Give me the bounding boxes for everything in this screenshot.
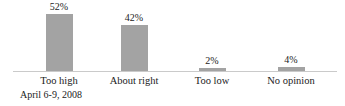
bar-no-opinion xyxy=(278,67,305,71)
value-label-no-opinion: 4% xyxy=(284,55,297,65)
value-label-too-high: 52% xyxy=(50,2,68,12)
bar-too-low xyxy=(199,68,226,71)
category-label-too-low: Too low xyxy=(195,75,230,86)
value-label-about-right: 42% xyxy=(125,13,143,23)
bar-too-high xyxy=(46,14,73,71)
bar-column-no-opinion: 4% xyxy=(278,55,305,71)
category-label-about-right: About right xyxy=(110,75,159,86)
category-label-no-opinion: No opinion xyxy=(267,75,315,86)
poll-bar-chart: 52%42%2%4% Too highAbout rightToo lowNo … xyxy=(0,0,345,106)
bar-column-too-high: 52% xyxy=(46,2,73,71)
x-axis-line xyxy=(13,71,337,72)
bar-column-too-low: 2% xyxy=(199,56,226,71)
bar-column-about-right: 42% xyxy=(121,13,148,71)
bar-about-right xyxy=(121,25,148,71)
survey-date-footnote: April 6-9, 2008 xyxy=(20,89,82,100)
value-label-too-low: 2% xyxy=(205,56,218,66)
category-label-too-high: Too high xyxy=(40,75,77,86)
